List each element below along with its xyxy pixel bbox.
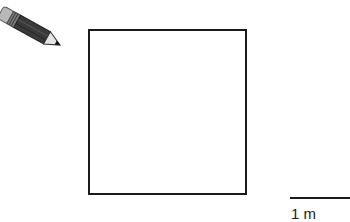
pencil-icon: [0, 0, 76, 46]
square-shape: [88, 29, 247, 195]
scale-bar-label: 1 m: [291, 205, 316, 222]
scale-bar: [290, 197, 350, 199]
